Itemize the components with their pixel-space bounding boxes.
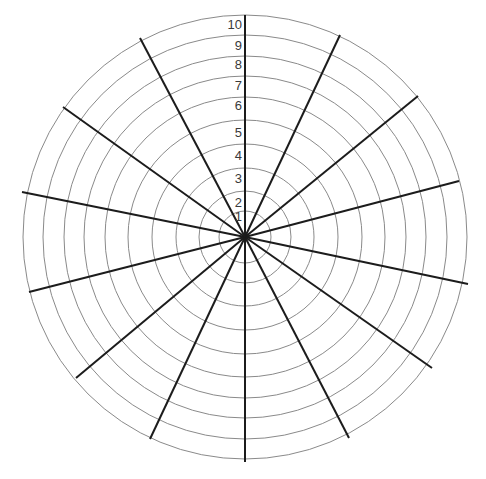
ring-label-2: 2 (235, 195, 242, 210)
spoke-12 (22, 192, 245, 237)
ring-label-8: 8 (235, 57, 242, 72)
ring-label-4: 4 (235, 148, 242, 163)
spoke-14 (140, 38, 245, 237)
ring-label-9: 9 (235, 38, 242, 53)
ring-label-5: 5 (235, 125, 242, 140)
polar-grid-diagram: 1 2 3 4 5 6 7 8 9 10 (0, 0, 486, 479)
ring-label-3: 3 (235, 171, 242, 186)
ring-label-6: 6 (235, 98, 242, 113)
spoke-9 (150, 237, 245, 439)
ring-label-10: 10 (228, 17, 242, 32)
ring-label-7: 7 (235, 78, 242, 93)
spoke-3 (245, 96, 418, 237)
spoke-2 (245, 35, 340, 237)
ring-label-1: 1 (235, 209, 242, 224)
